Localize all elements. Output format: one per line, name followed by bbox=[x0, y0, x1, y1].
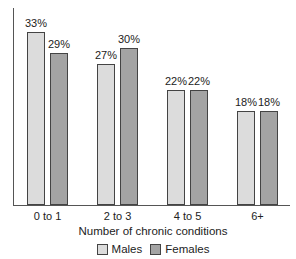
category-label: 0 to 1 bbox=[23, 210, 73, 222]
legend-item-males: Males bbox=[97, 243, 143, 255]
value-label: 18% bbox=[254, 96, 284, 108]
bar-females-4 bbox=[260, 111, 278, 205]
legend: Males Females bbox=[0, 243, 296, 255]
legend-label-males: Males bbox=[112, 243, 143, 255]
y-axis bbox=[13, 8, 14, 206]
value-label: 30% bbox=[114, 33, 144, 45]
value-label: 22% bbox=[184, 75, 214, 87]
bar-males-3 bbox=[167, 90, 185, 205]
value-label: 33% bbox=[21, 17, 51, 29]
category-label: 2 to 3 bbox=[93, 210, 143, 222]
value-label: 27% bbox=[91, 49, 121, 61]
category-label: 4 to 5 bbox=[163, 210, 213, 222]
bar-males-2 bbox=[97, 64, 115, 205]
females-swatch bbox=[150, 244, 161, 255]
bar-females-1 bbox=[50, 53, 68, 205]
bar-females-2 bbox=[120, 48, 138, 205]
legend-item-females: Females bbox=[150, 243, 209, 255]
bar-males-1 bbox=[27, 32, 45, 205]
grouped-bar-chart: 33%29%27%30%22%22%18%18% 0 to 12 to 34 t… bbox=[0, 0, 296, 259]
x-axis bbox=[13, 205, 290, 206]
bar-females-3 bbox=[190, 90, 208, 205]
males-swatch bbox=[97, 244, 108, 255]
legend-label-females: Females bbox=[165, 243, 209, 255]
bar-males-4 bbox=[237, 111, 255, 205]
category-label: 6+ bbox=[233, 210, 283, 222]
x-axis-title: Number of chronic conditions bbox=[0, 225, 296, 237]
value-label: 29% bbox=[44, 38, 74, 50]
